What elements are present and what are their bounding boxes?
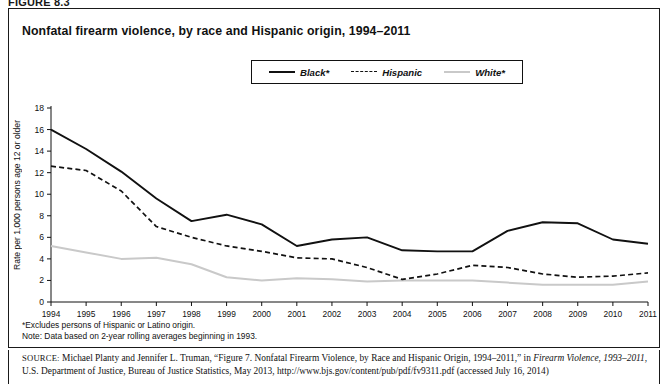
svg-text:1998: 1998	[182, 309, 201, 319]
footnote-1: *Excludes persons of Hispanic or Latino …	[22, 320, 257, 331]
source-title-italic: Firearm Violence,	[533, 353, 601, 363]
svg-text:2011: 2011	[639, 309, 657, 319]
svg-text:2009: 2009	[568, 309, 587, 319]
source-text-a: Michael Planty and Jennifer L. Truman, “…	[60, 353, 534, 363]
svg-text:1997: 1997	[147, 309, 166, 319]
svg-text:4: 4	[39, 254, 44, 264]
source-prefix: SOURCE:	[22, 353, 60, 363]
figure-page: FIGURE 8.3 Nonfatal firearm violence, by…	[0, 0, 671, 384]
svg-text:1994: 1994	[42, 309, 61, 319]
svg-text:8: 8	[39, 211, 44, 221]
svg-text:18: 18	[34, 103, 44, 113]
svg-text:2003: 2003	[358, 309, 377, 319]
source-note: SOURCE: Michael Planty and Jennifer L. T…	[8, 352, 660, 378]
svg-text:10: 10	[34, 189, 44, 199]
svg-text:0: 0	[39, 297, 44, 307]
series-line-white	[51, 246, 648, 285]
svg-text:2008: 2008	[533, 309, 552, 319]
svg-text:2004: 2004	[393, 309, 412, 319]
svg-text:2007: 2007	[498, 309, 517, 319]
chart-footnotes: *Excludes persons of Hispanic or Latino …	[22, 320, 257, 343]
svg-text:2001: 2001	[288, 309, 307, 319]
footnote-2: Note: Data based on 2-year rolling avera…	[22, 331, 257, 342]
svg-text:2002: 2002	[323, 309, 342, 319]
svg-text:1999: 1999	[217, 309, 236, 319]
series-line-black	[51, 130, 648, 252]
svg-text:2000: 2000	[252, 309, 271, 319]
svg-text:12: 12	[34, 168, 44, 178]
svg-text:2005: 2005	[428, 309, 447, 319]
svg-text:16: 16	[34, 125, 44, 135]
svg-text:1995: 1995	[77, 309, 96, 319]
svg-text:2: 2	[39, 275, 44, 285]
svg-text:6: 6	[39, 232, 44, 242]
svg-text:2006: 2006	[463, 309, 482, 319]
svg-text:14: 14	[34, 146, 44, 156]
svg-text:2010: 2010	[604, 309, 623, 319]
svg-text:1996: 1996	[112, 309, 131, 319]
source-years-italic: 1993–2011	[603, 353, 645, 363]
